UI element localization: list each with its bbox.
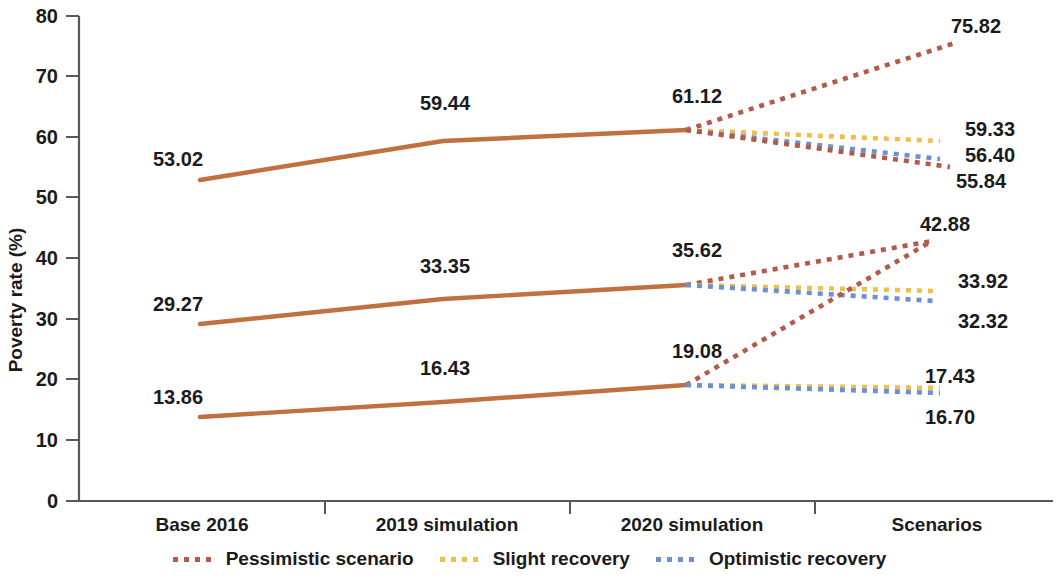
legend-item-optimistic-recovery[interactable]: Optimistic recovery [656,548,886,570]
data-label-lower-2019: 16.43 [420,357,470,379]
data-label-upper-optimistic: 56.40 [965,144,1015,166]
x-category-label-2020-simulation: 2020 simulation [621,514,764,535]
line-lower-optimistic-recovery [686,385,940,393]
data-label-middle-optimistic: 32.32 [958,310,1008,332]
legend-item-pessimistic-scenario[interactable]: Pessimistic scenario [173,548,414,570]
line-middle-baseline [200,285,686,324]
series-group-upper: 53.02 59.44 61.12 75.82 59.33 56.40 55.8… [153,15,1015,192]
data-label-middle-pessimistic: 42.88 [920,213,970,235]
y-tick-label-50: 50 [36,186,58,208]
poverty-rate-line-chart: 80 70 60 50 40 30 20 10 0 Poverty rate (… [0,0,1059,584]
data-label-upper-pessimistic-low: 55.84 [956,170,1007,192]
line-upper-optimistic-recovery [686,130,940,159]
series-group-lower: 13.86 16.43 19.08 17.43 16.70 [153,241,975,428]
y-tick-label-70: 70 [36,65,58,87]
x-category-label-2019-simulation: 2019 simulation [376,514,519,535]
y-axis-title: Poverty rate (%) [5,228,26,373]
data-label-upper-slight: 59.33 [965,118,1015,140]
x-axis: Base 2016 2019 simulation 2020 simulatio… [79,501,1053,535]
data-label-upper-pessimistic: 75.82 [951,15,1001,37]
y-tick-label-30: 30 [36,308,58,330]
x-category-label-scenarios: Scenarios [892,514,983,535]
legend-swatch-pessimistic-icon [173,557,217,562]
data-label-lower-2020: 19.08 [672,340,722,362]
legend-label-slight-recovery: Slight recovery [493,548,630,570]
chart-legend: Pessimistic scenario Slight recovery Opt… [0,548,1059,570]
data-label-lower-base-2016: 13.86 [153,386,203,408]
y-tick-label-20: 20 [36,368,58,390]
y-tick-label-40: 40 [36,247,58,269]
y-tick-label-60: 60 [36,126,58,148]
data-label-middle-2020: 35.62 [672,239,722,261]
data-label-upper-2020: 61.12 [672,85,722,107]
legend-swatch-optimistic-recovery-icon [656,557,700,562]
data-label-lower-slight: 17.43 [925,365,975,387]
legend-label-pessimistic: Pessimistic scenario [226,548,414,570]
chart-canvas: 80 70 60 50 40 30 20 10 0 Poverty rate (… [0,0,1059,584]
legend-label-optimistic-recovery: Optimistic recovery [709,548,886,570]
legend-swatch-slight-recovery-icon [440,557,484,562]
data-label-middle-slight: 33.92 [958,270,1008,292]
y-tick-label-10: 10 [36,429,58,451]
data-label-lower-optimistic: 16.70 [925,406,975,428]
y-tick-label-0: 0 [47,490,58,512]
data-label-middle-base-2016: 29.27 [153,293,203,315]
y-tick-label-80: 80 [36,5,58,27]
line-upper-slight-recovery [686,130,940,141]
y-axis: 80 70 60 50 40 30 20 10 0 Poverty rate (… [5,5,79,512]
data-label-upper-2019: 59.44 [420,92,471,114]
line-lower-slight-recovery [686,385,940,388]
line-lower-baseline [200,385,686,417]
data-label-middle-2019: 33.35 [420,255,470,277]
x-category-label-base-2016: Base 2016 [156,514,249,535]
line-upper-baseline [200,130,686,180]
data-label-upper-base-2016: 53.02 [153,148,203,170]
line-upper-pessimistic [686,42,958,130]
legend-item-slight-recovery[interactable]: Slight recovery [440,548,630,570]
